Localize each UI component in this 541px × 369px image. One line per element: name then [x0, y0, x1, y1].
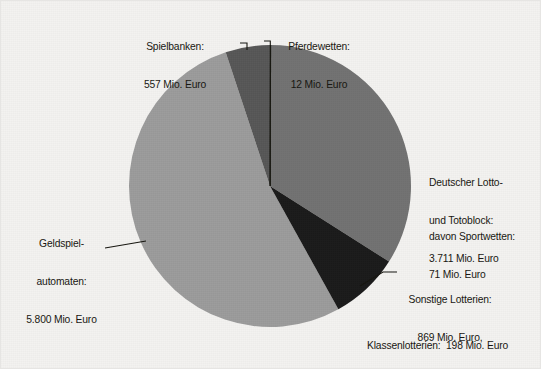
label-lotto-line1: Deutscher Lotto- — [429, 177, 541, 190]
breakdown-row-klassenlotterien: Klassenlotterien: 198 Mio. Euro — [367, 340, 541, 352]
label-pferdewetten-line2: 12 Mio. Euro — [260, 79, 378, 92]
label-geldspiel-line2: automaten: — [9, 276, 114, 289]
label-geldspiel-line1: Geldspiel- — [9, 238, 114, 251]
label-sportwetten-line1: davon Sportwetten: — [429, 231, 541, 244]
label-sonstige-line1: Sonstige Lotterien: — [395, 294, 505, 307]
label-pferdewetten: Pferdewetten: 12 Mio. Euro — [260, 16, 378, 117]
pie-chart-figure: Spielbanken: 557 Mio. Euro Pferdewetten:… — [0, 0, 541, 369]
label-sonstige-lotterien-breakdown: Klassenlotterien: 198 Mio. Euro Fernsehl… — [367, 315, 541, 369]
label-geldspiel-line3: 5.800 Mio. Euro — [9, 314, 114, 327]
label-spielbanken-line2: 557 Mio. Euro — [114, 79, 236, 92]
label-spielbanken-line1: Spielbanken: — [114, 41, 236, 54]
label-spielbanken: Spielbanken: 557 Mio. Euro — [114, 16, 236, 117]
label-geldspielautomaten: Geldspiel- automaten: 5.800 Mio. Euro — [9, 213, 114, 352]
label-pferdewetten-line1: Pferdewetten: — [260, 41, 378, 54]
